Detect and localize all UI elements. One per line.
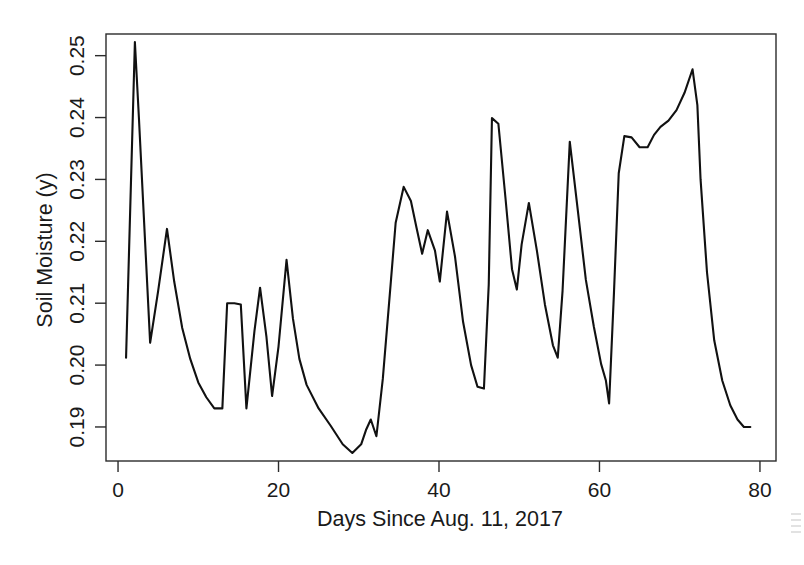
series-line-soil-moisture	[126, 42, 750, 453]
y-tick-label: 0.19	[65, 407, 88, 448]
scan-artifact-marks	[791, 513, 801, 559]
y-tick-label: 0.24	[65, 97, 88, 138]
x-tick-label: 40	[427, 478, 450, 501]
x-axis-title: Days Since Aug. 11, 2017	[317, 507, 563, 531]
x-tick-label: 80	[748, 478, 771, 501]
line-chart-canvas: 0204060800.190.200.210.220.230.240.25 Da…	[0, 0, 804, 565]
y-tick-label: 0.21	[65, 283, 88, 324]
y-tick-label: 0.23	[65, 159, 88, 200]
x-tick-label: 0	[112, 478, 124, 501]
y-tick-label: 0.22	[65, 221, 88, 262]
y-tick-label: 0.20	[65, 345, 88, 386]
y-tick-label: 0.25	[65, 35, 88, 76]
x-tick-label: 60	[588, 478, 611, 501]
x-tick-label: 20	[267, 478, 290, 501]
y-axis-title: Soil Moisture (y)	[33, 172, 57, 327]
soil-moisture-figure: 0204060800.190.200.210.220.230.240.25 Da…	[0, 0, 804, 565]
